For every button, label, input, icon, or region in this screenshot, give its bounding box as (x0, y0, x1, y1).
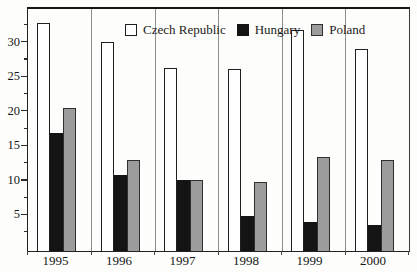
x-tick (91, 251, 92, 255)
bar-hungary (177, 180, 190, 251)
bar-poland (254, 182, 267, 251)
bar-hungary (114, 175, 127, 251)
bar-czech-republic (291, 30, 304, 251)
chart-figure: 51015202530 Czech RepublicHungaryPoland … (0, 0, 417, 272)
x-tick-label: 1999 (280, 253, 340, 269)
x-tick (408, 251, 409, 255)
y-minor-tick (24, 197, 28, 198)
y-major-tick (21, 76, 27, 77)
legend-item-hungary: Hungary (237, 22, 301, 38)
x-tick (281, 251, 282, 255)
y-tick-label: 15 (0, 139, 20, 151)
y-minor-tick (24, 231, 28, 232)
x-tick (27, 251, 28, 255)
y-minor-tick (24, 24, 28, 25)
x-tick-label: 1998 (216, 253, 276, 269)
y-major-tick (21, 41, 27, 42)
x-tick (218, 251, 219, 255)
y-minor-tick (24, 93, 28, 94)
y-tick-label: 20 (0, 105, 20, 117)
bar-czech-republic (228, 69, 241, 251)
category-gridline (218, 9, 219, 251)
plot-inner (28, 9, 409, 251)
bar-poland (317, 157, 330, 251)
x-tick (345, 251, 346, 255)
y-tick-label: 30 (0, 36, 20, 48)
legend-item-poland: Poland (311, 22, 365, 38)
legend-label: Hungary (255, 22, 301, 38)
y-tick-label: 5 (0, 208, 20, 220)
category-gridline (282, 9, 283, 251)
bar-czech-republic (355, 49, 368, 251)
bar-hungary (50, 133, 63, 251)
bar-hungary (368, 225, 381, 251)
x-tick-label: 1996 (89, 253, 149, 269)
bar-hungary (241, 216, 254, 251)
legend-swatch-icon (311, 24, 323, 36)
bar-poland (381, 160, 394, 251)
bar-czech-republic (164, 68, 177, 251)
legend-label: Czech Republic (143, 22, 226, 38)
legend-swatch-icon (237, 24, 249, 36)
y-tick-label: 10 (0, 174, 20, 186)
category-gridline (345, 9, 346, 251)
y-major-tick (21, 179, 27, 180)
bar-poland (190, 180, 203, 251)
x-tick-label: 1997 (153, 253, 213, 269)
x-tick-label: 2000 (343, 253, 403, 269)
category-gridline (155, 9, 156, 251)
y-major-tick (21, 110, 27, 111)
y-minor-tick (24, 58, 28, 59)
y-major-tick (21, 214, 27, 215)
bar-poland (63, 108, 76, 251)
bar-hungary (304, 222, 317, 251)
y-minor-tick (24, 128, 28, 129)
plot-area: Czech RepublicHungaryPoland (27, 7, 410, 252)
legend: Czech RepublicHungaryPoland (125, 22, 365, 38)
legend-swatch-icon (125, 24, 137, 36)
category-gridline (91, 9, 92, 251)
x-tick-label: 1995 (26, 253, 86, 269)
bar-czech-republic (101, 42, 114, 251)
x-tick (154, 251, 155, 255)
bar-czech-republic (37, 23, 50, 251)
bar-poland (127, 160, 140, 251)
y-minor-tick (24, 162, 28, 163)
y-tick-label: 25 (0, 70, 20, 82)
y-major-tick (21, 145, 27, 146)
legend-item-czech-republic: Czech Republic (125, 22, 226, 38)
legend-label: Poland (329, 22, 365, 38)
